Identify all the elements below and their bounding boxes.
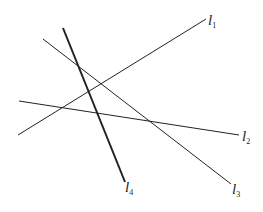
line-l1 [18, 19, 206, 135]
label-l1: l1 [208, 13, 216, 30]
line-l2 [19, 101, 239, 135]
line-l4 [63, 28, 125, 182]
label-l4: l4 [125, 180, 133, 197]
label-l3: l3 [232, 182, 240, 199]
label-l2: l2 [242, 129, 250, 146]
line-l3 [43, 39, 231, 184]
diagram-canvas: l1 l2 l3 l4 [0, 0, 263, 212]
